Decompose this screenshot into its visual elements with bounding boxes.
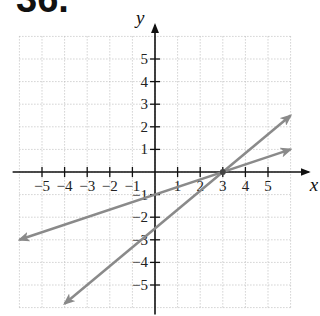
intersection-point: [220, 169, 226, 175]
data-line-2: [65, 116, 291, 304]
x-tick-label: 4: [242, 178, 250, 194]
y-tick-label: −4: [132, 254, 148, 270]
x-tick-label: 3: [219, 178, 227, 194]
x-tick-label: −3: [79, 178, 95, 194]
y-tick-label: −2: [132, 209, 148, 225]
y-axis-label: y: [134, 7, 145, 28]
coordinate-plane: −5−4−3−2−112345−5−4−3−2−112345xy: [0, 0, 320, 316]
x-tick-label: −4: [57, 178, 73, 194]
y-tick-label: 1: [141, 141, 149, 157]
x-tick-label: −2: [102, 178, 118, 194]
y-tick-label: 5: [141, 51, 149, 67]
y-tick-label: −5: [132, 277, 148, 293]
y-tick-label: 4: [141, 74, 149, 90]
x-tick-label: −5: [34, 178, 50, 194]
y-tick-label: 3: [141, 96, 149, 112]
y-tick-label: 2: [141, 119, 149, 135]
x-axis-label: x: [309, 174, 319, 195]
x-tick-label: 5: [264, 178, 272, 194]
